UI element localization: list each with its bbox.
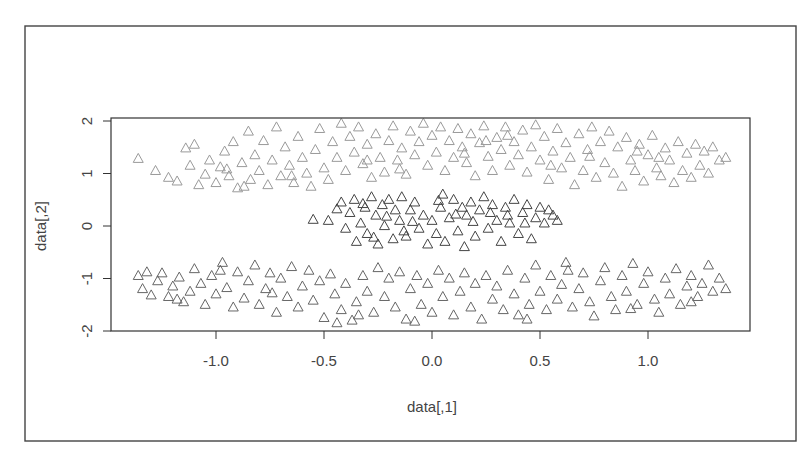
data-point [397, 143, 407, 152]
data-point [151, 165, 161, 174]
data-point [354, 310, 364, 319]
data-point [200, 299, 210, 308]
data-point [578, 165, 588, 174]
data-point [654, 307, 664, 316]
data-point [341, 278, 351, 287]
data-point [513, 228, 523, 237]
data-point [708, 286, 718, 295]
data-point [392, 155, 402, 164]
data-point [220, 146, 230, 155]
data-point [336, 305, 346, 314]
data-point [505, 160, 515, 169]
data-point [455, 286, 465, 295]
data-point [617, 270, 627, 279]
data-point [585, 151, 595, 160]
data-point [354, 122, 364, 131]
data-point [271, 122, 281, 131]
data-point [280, 142, 290, 151]
x-tick-label: -0.5 [311, 352, 337, 369]
data-point [496, 236, 506, 245]
data-point [552, 215, 562, 224]
data-point [682, 148, 692, 157]
data-point [351, 236, 361, 245]
data-point [367, 172, 377, 181]
data-point [133, 270, 143, 279]
data-point [578, 268, 588, 277]
data-point [466, 129, 476, 138]
data-point [319, 312, 329, 321]
data-point [265, 268, 275, 277]
data-point [468, 216, 478, 225]
data-point [427, 307, 437, 316]
data-point [509, 194, 519, 203]
data-point [423, 239, 433, 248]
y-tick-label: 1 [78, 169, 95, 177]
data-point [323, 174, 333, 183]
data-point [341, 223, 351, 232]
data-point [652, 163, 662, 172]
data-point [302, 168, 312, 177]
data-point [332, 152, 342, 161]
data-point [414, 223, 424, 232]
data-point [349, 147, 359, 156]
data-point [546, 160, 556, 169]
data-point [721, 284, 731, 293]
data-point [526, 234, 536, 243]
data-point [440, 165, 450, 174]
data-point [665, 155, 675, 164]
data-point [237, 158, 247, 167]
data-point [185, 160, 195, 169]
data-point [133, 153, 143, 162]
data-point [611, 305, 621, 314]
data-point [196, 278, 206, 287]
data-point [390, 302, 400, 311]
data-point [243, 126, 253, 135]
data-point [535, 202, 545, 211]
data-point [362, 286, 372, 295]
data-point [708, 142, 718, 151]
data-point [306, 181, 316, 190]
data-point [185, 286, 195, 295]
data-point [222, 164, 232, 173]
data-point [697, 278, 707, 287]
data-point [459, 268, 469, 277]
data-point [557, 279, 567, 288]
data-point [261, 284, 271, 293]
data-point [315, 123, 325, 132]
data-point [544, 174, 554, 183]
data-point [362, 228, 372, 237]
data-point [673, 137, 683, 146]
data-point [628, 258, 638, 267]
data-point [639, 176, 649, 185]
data-point [287, 262, 297, 271]
data-point [548, 146, 558, 155]
data-point [418, 210, 428, 219]
data-point [470, 231, 480, 240]
data-point [388, 121, 398, 130]
data-point [341, 165, 351, 174]
data-point [483, 151, 493, 160]
data-point [228, 302, 238, 311]
data-point [401, 231, 411, 240]
x-tick-label: -1.0 [203, 352, 229, 369]
data-point [513, 150, 523, 159]
data-point [617, 181, 627, 190]
data-point [174, 272, 184, 281]
data-point [500, 122, 510, 131]
y-tick-label: -2 [78, 324, 95, 337]
data-point [390, 205, 400, 214]
data-point [427, 130, 437, 139]
data-point [233, 267, 243, 276]
data-point [606, 291, 616, 300]
data-point [632, 146, 642, 155]
data-point [146, 290, 156, 299]
data-point [654, 152, 664, 161]
data-point [276, 171, 286, 180]
data-point [462, 158, 472, 167]
data-point [453, 226, 463, 235]
data-point [535, 286, 545, 295]
data-point [466, 197, 476, 206]
data-point [509, 289, 519, 298]
data-point [433, 265, 443, 274]
data-point [492, 132, 502, 141]
